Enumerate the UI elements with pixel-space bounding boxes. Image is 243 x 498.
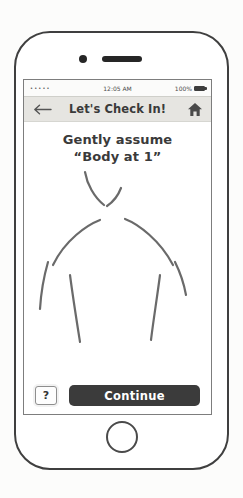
- app-header: Let's Check In!: [24, 96, 211, 122]
- phone-frame: ••••• 12:05 AM 100% Let's Check In!: [14, 31, 229, 470]
- battery-percent: 100%: [175, 85, 192, 92]
- camera-dot-icon: [79, 55, 87, 63]
- page-title: Let's Check In!: [24, 102, 211, 116]
- instruction-line-2: “Body at 1”: [63, 149, 173, 166]
- continue-button[interactable]: Continue: [69, 385, 200, 406]
- help-button[interactable]: ?: [35, 386, 57, 405]
- home-button[interactable]: [106, 421, 138, 453]
- footer-actions: ? Continue: [24, 385, 211, 406]
- main-content: Gently assume “Body at 1”: [24, 122, 211, 385]
- back-arrow-icon[interactable]: [33, 104, 52, 115]
- instruction-text: Gently assume “Body at 1”: [63, 132, 173, 166]
- speaker-icon: [102, 56, 142, 62]
- battery-indicator: 100%: [175, 85, 205, 92]
- battery-icon: [194, 86, 205, 91]
- page-background: ••••• 12:05 AM 100% Let's Check In!: [0, 0, 243, 498]
- signal-dots-icon: •••••: [30, 86, 51, 91]
- body-outline-illustration: [25, 168, 211, 366]
- app-screen: ••••• 12:05 AM 100% Let's Check In!: [23, 79, 212, 415]
- home-icon[interactable]: [188, 103, 202, 116]
- status-bar: ••••• 12:05 AM 100%: [24, 80, 211, 96]
- instruction-line-1: Gently assume: [63, 132, 173, 149]
